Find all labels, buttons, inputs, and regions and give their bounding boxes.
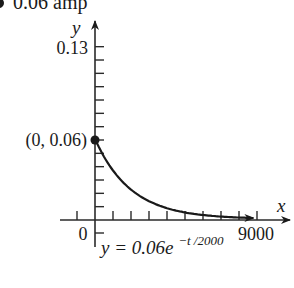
equation-label: y = 0.06e −t /2000 (99, 233, 224, 258)
equation-exponent: −t /2000 (178, 233, 224, 248)
y-axis-label: y (70, 17, 81, 38)
bullet-icon (0, 0, 4, 8)
header-fragment: 0.06 amp (13, 0, 87, 14)
x-ticks (77, 211, 257, 220)
y-tick-label-max: 0.13 (57, 38, 89, 58)
equation-base: y = 0.06e (99, 237, 173, 258)
decay-curve (95, 139, 253, 218)
initial-point-label: (0, 0.06) (26, 130, 88, 151)
exponential-decay-chart: 0.06 amp y x 0.13 0 9000 (0, 0.06) y = 0… (0, 0, 294, 288)
x-tick-label-max: 9000 (238, 224, 274, 244)
x-axis-label: x (276, 195, 286, 216)
initial-point-marker (91, 136, 100, 145)
x-tick-label-origin: 0 (79, 224, 88, 244)
